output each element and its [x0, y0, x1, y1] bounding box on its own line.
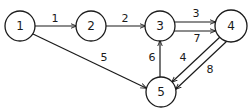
- node-5: 5: [146, 77, 176, 107]
- node-label: 5: [157, 85, 165, 99]
- node-label: 3: [156, 19, 164, 33]
- edge-weight-label: 2: [122, 12, 129, 25]
- nodes-layer: 12345: [5, 10, 247, 107]
- node-label: 1: [16, 19, 24, 33]
- edge-3-4: 3: [174, 7, 215, 23]
- edge-weight-label: 7: [194, 32, 201, 45]
- edge-weight-label: 5: [101, 51, 108, 64]
- edge-2-3: 2: [106, 12, 145, 27]
- node-2: 2: [76, 11, 106, 41]
- node-1: 1: [5, 11, 35, 41]
- node-3: 3: [145, 11, 175, 41]
- edge-5-3: 6: [149, 41, 161, 77]
- node-4: 4: [215, 10, 247, 42]
- edges-layer: 12375648: [33, 7, 227, 90]
- node-label: 4: [227, 19, 235, 33]
- edge-weight-label: 8: [207, 63, 214, 76]
- edge-arrow-line: [176, 41, 227, 89]
- edge-weight-label: 6: [149, 51, 156, 64]
- edge-1-2: 1: [35, 12, 76, 27]
- edge-weight-label: 4: [180, 51, 187, 64]
- node-label: 2: [87, 19, 95, 33]
- edge-3-4: 7: [174, 31, 215, 45]
- graph-diagram: 12375648 12345: [0, 0, 251, 109]
- edge-1-5: 5: [33, 34, 146, 88]
- edge-weight-label: 1: [52, 12, 59, 25]
- edge-weight-label: 3: [193, 7, 200, 20]
- edge-arrow-line: [33, 34, 146, 88]
- edge-4-5: 8: [176, 41, 227, 89]
